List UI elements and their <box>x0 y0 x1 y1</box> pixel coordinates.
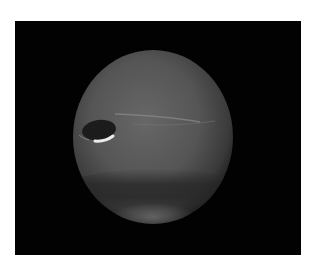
south-bright-region <box>111 203 195 231</box>
photo-frame <box>15 21 301 255</box>
neptune-image <box>15 21 301 255</box>
